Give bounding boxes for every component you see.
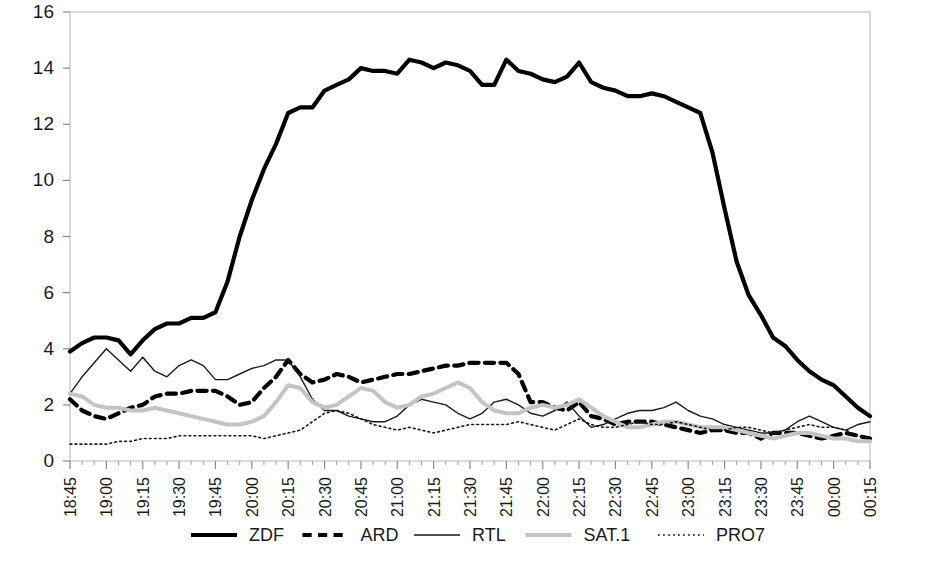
x-tick-label: 23:15 — [717, 477, 734, 517]
line-chart: 0246810121416 18:4519:0019:1519:3019:452… — [0, 0, 949, 561]
series-lines — [70, 60, 870, 444]
y-tick-label: 0 — [43, 450, 54, 471]
x-tick-label: 22:00 — [535, 477, 552, 517]
x-tick-label: 20:00 — [244, 477, 261, 517]
x-tick-label: 22:30 — [607, 477, 624, 517]
x-tick-label: 00:15 — [862, 477, 879, 517]
x-tick-label: 19:15 — [135, 477, 152, 517]
x-tick-label: 22:15 — [571, 477, 588, 517]
x-tick-label: 19:00 — [98, 477, 115, 517]
x-tick-label: 18:45 — [62, 477, 79, 517]
y-tick-label: 2 — [43, 394, 54, 415]
x-tick-label: 19:30 — [171, 477, 188, 517]
x-tick-label: 23:00 — [680, 477, 697, 517]
y-tick-label: 4 — [43, 338, 54, 359]
x-tick-label: 21:30 — [462, 477, 479, 517]
x-tick-label: 23:45 — [789, 477, 806, 517]
x-axis-ticks — [70, 461, 870, 469]
legend-label-rtl: RTL — [472, 525, 506, 545]
plot-frame-rect — [70, 12, 870, 461]
x-tick-label: 19:45 — [207, 477, 224, 517]
legend-label-pro7: PRO7 — [716, 525, 765, 545]
y-tick-label: 10 — [33, 169, 54, 190]
legend-label-zdf: ZDF — [249, 525, 284, 545]
series-line-ard — [70, 360, 870, 439]
x-tick-label: 21:45 — [498, 477, 515, 517]
x-tick-label: 20:15 — [280, 477, 297, 517]
y-axis-labels: 0246810121416 — [33, 1, 55, 471]
chart-legend: ZDFARDRTLSAT.1PRO7 — [191, 525, 765, 545]
y-tick-label: 12 — [33, 113, 54, 134]
x-tick-label: 20:45 — [353, 477, 370, 517]
x-tick-label: 22:45 — [644, 477, 661, 517]
x-tick-label: 21:15 — [426, 477, 443, 517]
chart-container: 0246810121416 18:4519:0019:1519:3019:452… — [0, 0, 949, 561]
y-tick-label: 16 — [33, 1, 54, 22]
x-tick-label: 20:30 — [317, 477, 334, 517]
y-tick-label: 8 — [43, 226, 54, 247]
x-tick-label: 00:00 — [826, 477, 843, 517]
x-axis-labels: 18:4519:0019:1519:3019:4520:0020:1520:30… — [62, 477, 879, 517]
x-tick-label: 21:00 — [389, 477, 406, 517]
plot-frame — [70, 12, 870, 461]
y-tick-label: 6 — [43, 282, 54, 303]
legend-label-ard: ARD — [361, 525, 399, 545]
x-tick-label: 23:30 — [753, 477, 770, 517]
legend-label-sat1: SAT.1 — [584, 525, 631, 545]
y-tick-label: 14 — [33, 57, 55, 78]
